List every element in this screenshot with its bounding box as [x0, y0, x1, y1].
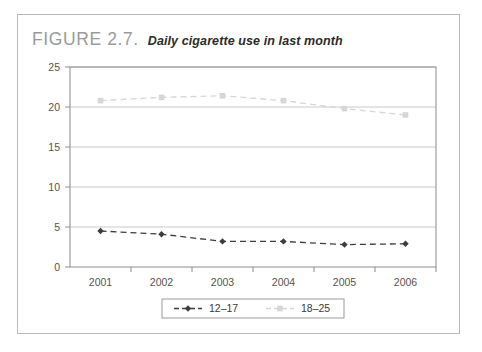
x-axis-tick-label: 2003: [211, 276, 235, 288]
legend-item-label[interactable]: 12–17: [209, 302, 238, 314]
y-axis: 0510152025: [48, 61, 70, 273]
plot-background: [70, 67, 436, 267]
data-point-marker: [277, 306, 283, 312]
figure-frame: FIGURE 2.7. Daily cigarette use in last …: [17, 14, 460, 334]
line-chart: 0510152025 200120022003200420052006 12–1…: [18, 15, 461, 335]
x-axis-tick-label: 2006: [394, 276, 418, 288]
chart-legend: 12–1718–25: [162, 299, 344, 318]
legend-item-label[interactable]: 18–25: [301, 302, 330, 314]
chart-area: 0510152025 200120022003200420052006 12–1…: [18, 15, 461, 335]
x-axis: 200120022003200420052006: [89, 267, 436, 288]
x-axis-tick-label: 2001: [89, 276, 113, 288]
y-axis-tick-label: 5: [54, 221, 60, 233]
x-axis-tick-label: 2005: [333, 276, 357, 288]
y-axis-tick-label: 15: [48, 141, 60, 153]
y-axis-tick-label: 0: [54, 261, 60, 273]
data-point-marker: [220, 93, 226, 99]
x-axis-tick-label: 2004: [272, 276, 296, 288]
data-point-marker: [403, 112, 409, 118]
y-axis-tick-label: 10: [48, 181, 60, 193]
x-axis-tick-label: 2002: [150, 276, 174, 288]
y-axis-tick-label: 25: [48, 61, 60, 73]
data-point-marker: [342, 106, 348, 112]
y-axis-tick-label: 20: [48, 101, 60, 113]
data-point-marker: [159, 95, 165, 101]
data-point-marker: [281, 98, 287, 104]
data-point-marker: [98, 98, 104, 104]
